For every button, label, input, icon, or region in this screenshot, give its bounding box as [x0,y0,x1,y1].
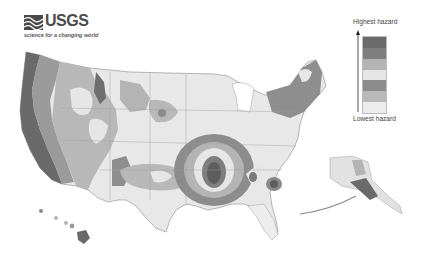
legend-swatch-level-1 [363,102,386,113]
alaska [300,156,402,214]
hazard-legend: Highest hazard Lowest hazard [336,18,424,128]
legend-swatch-level-5 [363,59,386,70]
legend-swatch-level-2 [363,91,386,102]
legend-swatch-level-7 [363,37,386,48]
legend-color-scale [362,36,387,114]
contiguous-us [20,52,326,240]
legend-highest-label: Highest hazard [353,18,397,25]
legend-lowest-label: Lowest hazard [353,115,396,122]
arrow-up-icon [356,30,360,112]
hawaii [39,209,90,244]
legend-swatch-level-4 [363,70,386,81]
legend-swatch-level-6 [363,48,386,59]
legend-swatch-level-3 [363,80,386,91]
